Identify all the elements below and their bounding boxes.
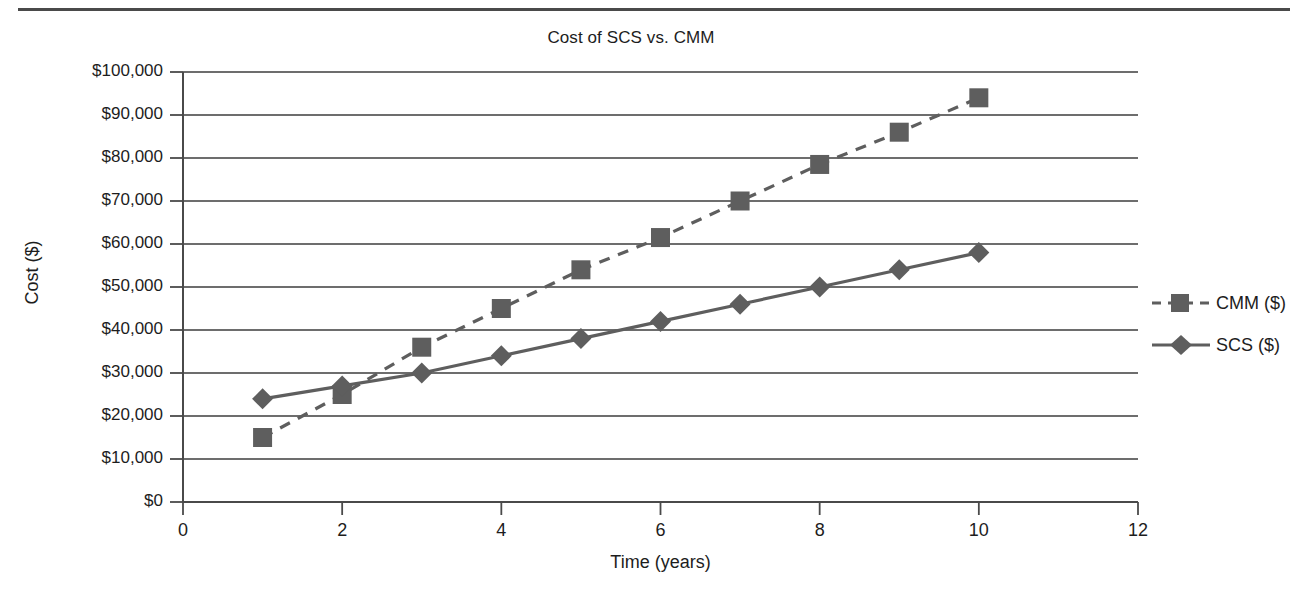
data-point-marker xyxy=(411,363,432,384)
y-tick-label: $90,000 xyxy=(0,104,163,124)
x-tick-label: 8 xyxy=(780,520,860,541)
x-axis-title: Time (years) xyxy=(183,552,1138,573)
gridlines-group xyxy=(183,72,1138,502)
series-lines-group xyxy=(263,98,979,438)
data-point-marker xyxy=(889,259,910,280)
data-point-marker xyxy=(651,228,670,247)
chart-legend: CMM ($) SCS ($) xyxy=(1152,282,1302,366)
data-point-marker xyxy=(809,277,830,298)
y-tick-marks-group xyxy=(170,72,183,502)
y-tick-label: $0 xyxy=(0,491,163,511)
data-point-marker xyxy=(491,345,512,366)
y-tick-label: $30,000 xyxy=(0,362,163,382)
legend-item-cmm[interactable]: CMM ($) xyxy=(1152,282,1302,324)
legend-label-cmm: CMM ($) xyxy=(1216,293,1286,314)
x-tick-label: 0 xyxy=(143,520,223,541)
series-line-cmm xyxy=(263,98,979,438)
x-tick-label: 4 xyxy=(461,520,541,541)
x-tick-label: 6 xyxy=(621,520,701,541)
legend-label-scs: SCS ($) xyxy=(1216,335,1280,356)
data-point-marker xyxy=(252,388,273,409)
legend-item-scs[interactable]: SCS ($) xyxy=(1152,324,1302,366)
x-tick-marks-group xyxy=(183,502,1138,515)
chart-figure: Cost of SCS vs. CMM $0$10,000$20,000$30,… xyxy=(0,0,1306,616)
y-tick-label: $20,000 xyxy=(0,405,163,425)
data-point-marker xyxy=(570,328,591,349)
x-tick-label: 10 xyxy=(939,520,1019,541)
x-tick-label: 12 xyxy=(1098,520,1178,541)
y-tick-label: $70,000 xyxy=(0,190,163,210)
data-point-marker xyxy=(492,299,511,318)
data-point-marker xyxy=(969,88,988,107)
legend-swatch-cmm xyxy=(1152,293,1210,313)
y-tick-label: $80,000 xyxy=(0,147,163,167)
data-point-marker xyxy=(571,260,590,279)
y-tick-label: $10,000 xyxy=(0,448,163,468)
data-point-marker xyxy=(650,311,671,332)
legend-swatch-scs xyxy=(1152,335,1210,355)
data-point-marker xyxy=(730,294,751,315)
x-tick-label: 2 xyxy=(302,520,382,541)
data-point-marker xyxy=(810,155,829,174)
y-axis-title: Cost ($) xyxy=(22,213,43,333)
data-point-marker xyxy=(890,123,909,142)
y-tick-label: $100,000 xyxy=(0,61,163,81)
data-point-marker xyxy=(731,192,750,211)
data-point-marker xyxy=(968,242,989,263)
data-point-marker xyxy=(412,338,431,357)
data-point-marker xyxy=(253,428,272,447)
